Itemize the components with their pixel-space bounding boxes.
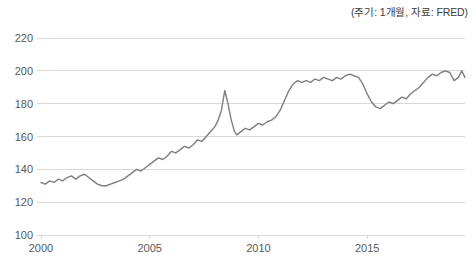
y-tick-label: 120 — [15, 196, 33, 208]
y-tick-label: 100 — [15, 229, 33, 241]
y-tick-marks-group — [37, 38, 41, 235]
x-tick-label: 2005 — [137, 242, 161, 254]
y-tick-label: 180 — [15, 98, 33, 110]
y-tick-label: 220 — [15, 32, 33, 44]
y-axis-labels-group: 100120140160180200220 — [15, 32, 33, 241]
x-axis-labels-group: 2000200520102015 — [29, 242, 380, 254]
y-tick-label: 140 — [15, 163, 33, 175]
x-tick-marks-group — [41, 235, 367, 239]
chart-annotation: (주기: 1개월, 자료: FRED) — [351, 4, 468, 19]
chart-container: (주기: 1개월, 자료: FRED) 10012014016018020022… — [0, 0, 476, 274]
y-tick-label: 160 — [15, 131, 33, 143]
y-tick-label: 200 — [15, 65, 33, 77]
x-tick-label: 2010 — [246, 242, 270, 254]
x-tick-label: 2015 — [355, 242, 379, 254]
data-series-group — [41, 71, 465, 186]
gridlines-group — [41, 38, 465, 235]
series-line — [41, 71, 465, 186]
line-chart-plot: 100120140160180200220 2000200520102015 — [0, 0, 476, 274]
x-tick-label: 2000 — [29, 242, 53, 254]
